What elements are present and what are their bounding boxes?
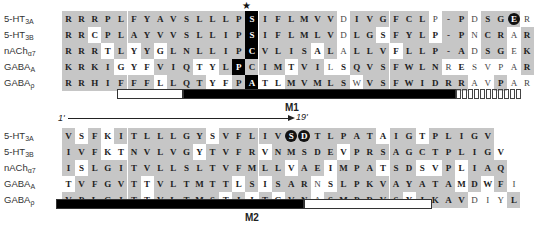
residue: I: [507, 176, 520, 192]
residue: V: [154, 59, 167, 75]
residue: I: [350, 11, 363, 27]
residue: V: [167, 144, 180, 160]
residue: F: [128, 11, 141, 27]
residue: L: [311, 27, 324, 43]
residue: R: [521, 75, 534, 91]
residue: L: [167, 176, 180, 192]
residue: V: [154, 27, 167, 43]
residue: I: [259, 27, 272, 43]
residue: T: [193, 59, 206, 75]
residue: P: [232, 11, 245, 27]
residue: D: [468, 192, 481, 208]
residue: A: [298, 160, 311, 176]
residue: G: [494, 11, 507, 27]
residue: A: [285, 176, 298, 192]
residue: F: [390, 59, 403, 75]
residue: L: [114, 27, 127, 43]
residue: T: [206, 144, 219, 160]
residue: I: [62, 160, 75, 176]
residue: L: [416, 11, 429, 27]
m1-transmembrane-bar: [183, 89, 456, 99]
residue: A: [442, 176, 455, 192]
residue: S: [337, 59, 350, 75]
residue: D: [468, 176, 481, 192]
residue: L: [455, 160, 468, 176]
arrowhead-icon: [288, 115, 295, 121]
conserved-proline-star-icon: ★: [242, 0, 251, 11]
residue: R: [363, 144, 376, 160]
highlighted-residue: S: [285, 128, 298, 144]
residue: P: [350, 176, 363, 192]
residue: W: [481, 176, 494, 192]
residue: I: [219, 27, 232, 43]
residue: I: [390, 128, 403, 144]
residue: V: [429, 160, 442, 176]
residue: I: [167, 59, 180, 75]
residue: V: [324, 11, 337, 27]
residue: M: [298, 27, 311, 43]
residue: S: [298, 144, 311, 160]
residue: Y: [128, 59, 141, 75]
residue: V: [75, 144, 88, 160]
residue: V: [494, 144, 507, 160]
residue: S: [481, 43, 494, 59]
residue: I: [259, 59, 272, 75]
m2-transmembrane-bar: [56, 199, 304, 209]
residue: C: [416, 144, 429, 160]
m2-post-bar: [304, 199, 432, 209]
residue: L: [324, 128, 337, 144]
residue: F: [88, 176, 101, 192]
residue: S: [376, 59, 389, 75]
residue: S: [416, 160, 429, 176]
sequence-label: 5-HT3B: [4, 30, 34, 43]
residue: L: [272, 160, 285, 176]
residue: G: [114, 59, 127, 75]
residue: L: [219, 11, 232, 27]
position-19-prime: 19': [296, 112, 308, 122]
residue: S: [245, 27, 258, 43]
residue: R: [62, 75, 75, 91]
residue: V: [259, 144, 272, 160]
residue: L: [403, 43, 416, 59]
residue: K: [62, 59, 75, 75]
residue: R: [88, 11, 101, 27]
residue: F: [272, 27, 285, 43]
residue: R: [298, 176, 311, 192]
residue: R: [75, 59, 88, 75]
residue: A: [390, 144, 403, 160]
residue: F: [390, 27, 403, 43]
residue: A: [481, 160, 494, 176]
residue: P: [350, 144, 363, 160]
residue: I: [259, 176, 272, 192]
residue: L: [206, 43, 219, 59]
residue: T: [180, 176, 193, 192]
residue: K: [363, 176, 376, 192]
residue: E: [324, 144, 337, 160]
residue: M: [298, 11, 311, 27]
residue: N: [272, 144, 285, 160]
residue: M: [193, 176, 206, 192]
highlighted-residue: E: [507, 11, 520, 27]
residue: D: [468, 43, 481, 59]
residue: M: [245, 160, 258, 176]
residue: R: [75, 75, 88, 91]
sequence-label: GABAA: [4, 179, 35, 192]
residue: I: [62, 144, 75, 160]
residue: V: [141, 160, 154, 176]
residue: L: [167, 160, 180, 176]
residue: A: [416, 176, 429, 192]
residue: D: [468, 11, 481, 27]
residue: I: [114, 128, 127, 144]
residue: L: [416, 27, 429, 43]
residue: V: [62, 128, 75, 144]
residue: M: [272, 59, 285, 75]
residue: V: [455, 192, 468, 208]
pore-lining-arrow: [68, 118, 290, 119]
residue: G: [101, 160, 114, 176]
residue: A: [337, 43, 350, 59]
residue: D: [337, 27, 350, 43]
residue: A: [128, 27, 141, 43]
residue: L: [285, 27, 298, 43]
residue: I: [101, 75, 114, 91]
residue: L: [259, 160, 272, 176]
